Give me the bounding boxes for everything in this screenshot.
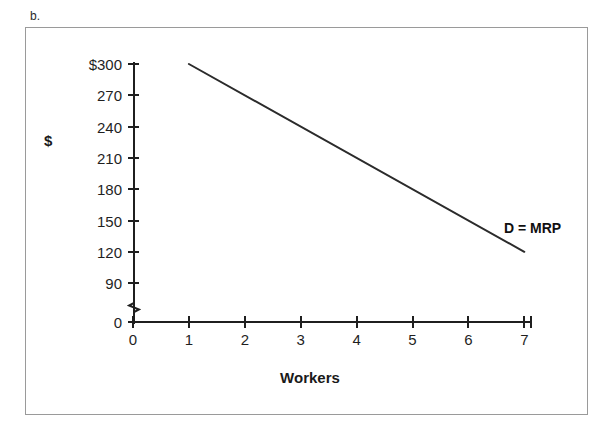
demand-curve — [0, 0, 611, 430]
demand-line-segment — [189, 64, 524, 252]
plot-area: 090120150180210240270$300 01234567 $ Wor… — [0, 0, 611, 430]
y-axis-title: $ — [44, 132, 52, 149]
series-label-d-mrp: D = MRP — [504, 220, 561, 236]
x-axis-title: Workers — [210, 369, 410, 386]
